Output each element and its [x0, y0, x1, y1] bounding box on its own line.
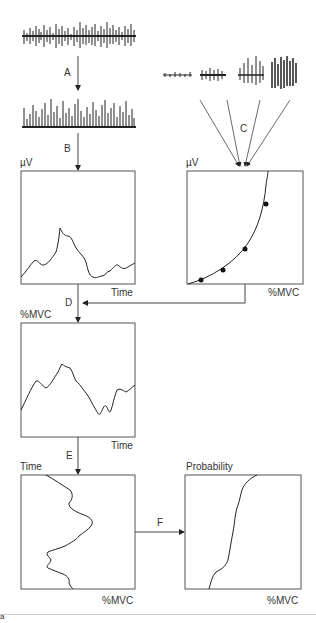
emg-amplitude-xlabel: Time: [111, 287, 133, 298]
calibration-xlabel: %MVC: [268, 287, 299, 298]
emg-amplitude-curve: [21, 228, 135, 278]
calibration-curve: [188, 171, 268, 284]
time-distribution-panel: [21, 475, 135, 589]
probability-ylabel: Probability: [186, 461, 233, 472]
calibration-point: [199, 278, 204, 283]
calibration-point: [221, 268, 226, 273]
step-label-f: F: [157, 517, 163, 528]
time-distribution-xlabel: %MVC: [102, 595, 133, 606]
time-distribution-ylabel: Time: [20, 461, 42, 472]
step-label-e: E: [66, 450, 73, 461]
normalized-ylabel: %MVC: [20, 309, 51, 320]
normalized-panel: [21, 323, 135, 437]
raw-emg-signal: [22, 22, 136, 48]
calibration-ylabel: µV: [186, 157, 198, 168]
time-distribution-curve: [46, 475, 92, 589]
probability-xlabel: %MVC: [267, 595, 298, 606]
step-label-d: D: [65, 297, 72, 308]
step-label-a: A: [64, 67, 71, 78]
step-label-b: B: [64, 143, 71, 154]
calibration-point: [243, 247, 248, 252]
cumulative-probability-curve: [209, 475, 257, 589]
rectified-emg-signal: [22, 99, 136, 127]
normalized-xlabel: Time: [111, 440, 133, 451]
calibration-panel: [187, 171, 303, 284]
normalized-curve: [21, 364, 135, 414]
step-label-c: C: [240, 123, 247, 134]
calibration-signals: [163, 56, 296, 89]
emg-amplitude-ylabel: µV: [20, 157, 32, 168]
probability-panel: [185, 475, 301, 589]
calibration-point: [264, 202, 269, 207]
emg-amplitude-panel: [21, 171, 135, 284]
footer-mark: a: [0, 612, 4, 621]
